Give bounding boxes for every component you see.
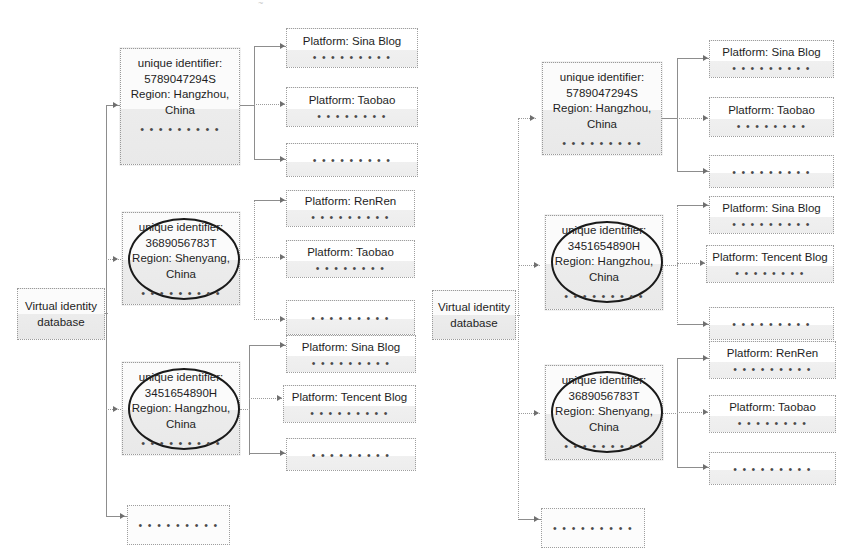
right-g2-arrow-2 — [700, 260, 705, 266]
left-platform-1-2-dots: • • • • • • • • — [317, 110, 386, 122]
left-identity-2-id-value: 3689056783T — [146, 236, 217, 252]
left-platform-1-1-label: Platform: Sina Blog — [303, 34, 401, 48]
right-platform-2-3-dots: • • • • • • • • • — [732, 318, 811, 330]
right-db-label: Virtual identity database — [438, 299, 510, 331]
left-g1-arrow-1 — [280, 43, 285, 49]
scan-artifact-glyph: ~ — [258, 0, 263, 8]
right-platform-2-2-dots: • • • • • • • • — [735, 267, 804, 279]
left-identity-card-3[interactable]: unique identifier: 3451654890H Region: H… — [122, 362, 240, 455]
diagram-canvas: ~ Virtual identity database unique ident… — [0, 0, 850, 560]
left-trunk-line — [106, 105, 107, 517]
left-platform-1-2-label: Platform: Taobao — [309, 93, 396, 107]
left-platform-2-3-dots: • • • • • • • • • — [311, 312, 390, 324]
right-platform-2-1-label: Platform: Sina Blog — [722, 201, 820, 215]
left-platform-2-1-label: Platform: RenRen — [305, 194, 396, 208]
right-platform-card-1-2[interactable]: Platform: Taobao • • • • • • • • — [709, 97, 834, 137]
left-g1-arrow-2 — [280, 101, 285, 107]
left-identity-1-country: China — [165, 103, 195, 119]
left-platform-card-3-1[interactable]: Platform: Sina Blog • • • • • • • • • — [286, 335, 416, 373]
right-platform-card-2-2[interactable]: Platform: Tencent Blog • • • • • • • • — [706, 245, 834, 283]
left-platform-card-1-1[interactable]: Platform: Sina Blog • • • • • • • • • — [286, 28, 418, 68]
right-identity-1-id-value: 5789047294S — [566, 86, 638, 102]
right-identity-2-country: China — [589, 270, 619, 286]
left-identity-card-2[interactable]: unique identifier: 3689056783T Region: S… — [122, 212, 240, 305]
right-platform-card-3-2[interactable]: Platform: Taobao • • • • • • • • — [709, 395, 836, 433]
right-g1-trunk — [677, 58, 678, 172]
right-identity-1-dots: • • • • • • • • • — [562, 137, 642, 149]
left-identity-1-id-value: 5789047294S — [144, 72, 216, 88]
left-platform-card-3-2[interactable]: Platform: Tencent Blog • • • • • • • • • — [283, 385, 416, 423]
right-g1-arrow-2 — [703, 115, 708, 121]
right-platform-card-2-1[interactable]: Platform: Sina Blog • • • • • • • • • — [709, 196, 834, 234]
left-g2-arrow-2 — [280, 254, 285, 260]
left-platform-2-1-dots: • • • • • • • • • — [311, 211, 390, 223]
left-g3-arrow-1 — [280, 342, 285, 348]
right-platform-1-2-dots: • • • • • • • • — [737, 120, 806, 132]
right-platform-3-1-label: Platform: RenRen — [727, 346, 818, 360]
right-identity-1-country: China — [587, 117, 617, 133]
left-identity-2-country: China — [166, 267, 196, 283]
left-platform-card-2-1[interactable]: Platform: RenRen • • • • • • • • • — [286, 190, 415, 227]
right-platform-2-2-label: Platform: Tencent Blog — [712, 250, 828, 264]
left-platform-card-2-2[interactable]: Platform: Taobao • • • • • • • • — [286, 240, 415, 278]
right-g3-arrow-3 — [703, 464, 708, 470]
left-platform-card-1-2[interactable]: Platform: Taobao • • • • • • • • — [286, 87, 418, 127]
right-identity-2-id-label: unique identifier: — [562, 223, 646, 239]
left-arrow-identity-3 — [113, 406, 118, 412]
right-platform-card-3-3[interactable]: • • • • • • • • • — [709, 452, 836, 485]
right-arrow-identity-1 — [530, 115, 535, 121]
left-overflow-dots: • • • • • • • • • — [138, 519, 218, 531]
left-platform-card-2-3[interactable]: • • • • • • • • • — [286, 300, 415, 335]
left-platform-3-3-dots: • • • • • • • • • — [312, 449, 391, 461]
right-platform-1-3-dots: • • • • • • • • • — [732, 166, 811, 178]
right-db-line2: database — [450, 317, 497, 329]
left-arrow-identity-1 — [113, 102, 118, 108]
right-identity-card-1[interactable]: unique identifier: 5789047294S Region: H… — [542, 62, 662, 155]
left-virtual-identity-database-box[interactable]: Virtual identity database — [17, 288, 105, 340]
left-platform-card-1-3[interactable]: • • • • • • • • • — [286, 143, 418, 177]
left-platform-1-3-dots: • • • • • • • • • — [313, 154, 392, 166]
right-identity-2-id-value: 3451654890H — [568, 239, 640, 255]
right-identity-2-dots: • • • • • • • • • — [564, 290, 644, 302]
left-db-line2: database — [37, 316, 84, 328]
left-identity-card-1[interactable]: unique identifier: 5789047294S Region: H… — [120, 48, 240, 165]
left-db-label: Virtual identity database — [25, 298, 97, 330]
right-identity-1-id-label: unique identifier: — [560, 70, 644, 86]
left-identity-1-id-label: unique identifier: — [138, 56, 222, 72]
right-g1-in — [662, 118, 678, 119]
left-g2-in — [240, 259, 255, 260]
right-identity-3-dots: • • • • • • • • • — [564, 440, 644, 452]
right-platform-card-1-1[interactable]: Platform: Sina Blog • • • • • • • • • — [709, 40, 834, 78]
left-platform-3-1-dots: • • • • • • • • • — [312, 357, 391, 369]
left-identity-2-region: Region: Shenyang, — [132, 251, 230, 267]
right-arrow-identity-3 — [534, 410, 539, 416]
right-platform-2-1-dots: • • • • • • • • • — [732, 218, 811, 230]
right-platform-3-1-dots: • • • • • • • • • — [733, 363, 812, 375]
left-platform-1-1-dots: • • • • • • • • • — [313, 51, 392, 63]
right-platform-3-3-dots: • • • • • • • • • — [733, 463, 812, 475]
right-platform-card-2-3[interactable]: • • • • • • • • • — [709, 307, 834, 340]
left-identity-1-dots: • • • • • • • • • — [140, 123, 220, 135]
right-platform-3-2-label: Platform: Taobao — [729, 400, 816, 414]
left-g2-trunk — [254, 200, 255, 320]
left-identity-2-id-label: unique identifier: — [139, 220, 223, 236]
left-overflow-card[interactable]: • • • • • • • • • — [127, 505, 230, 545]
left-g3-arrow-2 — [277, 395, 282, 401]
left-g1-trunk — [254, 46, 255, 160]
right-platform-1-1-label: Platform: Sina Blog — [722, 45, 820, 59]
right-platform-card-3-1[interactable]: Platform: RenRen • • • • • • • • • — [709, 341, 836, 379]
right-platform-card-1-3[interactable]: • • • • • • • • • — [709, 155, 834, 188]
right-identity-3-region: Region: Shenyang, — [555, 404, 653, 420]
right-overflow-card[interactable]: • • • • • • • • • — [541, 508, 645, 548]
right-identity-card-2[interactable]: unique identifier: 3451654890H Region: H… — [545, 215, 663, 310]
left-g1-arrow-3 — [280, 156, 285, 162]
right-g2-in — [663, 265, 678, 266]
left-platform-3-2-dots: • • • • • • • • • — [310, 407, 389, 419]
left-db-line1: Virtual identity — [25, 300, 97, 312]
right-virtual-identity-database-box[interactable]: Virtual identity database — [432, 290, 516, 340]
right-identity-3-id-value: 3689056783T — [569, 389, 640, 405]
right-g1-arrow-3 — [703, 168, 708, 174]
left-platform-card-3-3[interactable]: • • • • • • • • • — [286, 438, 416, 471]
right-identity-3-id-label: unique identifier: — [562, 373, 646, 389]
right-identity-card-3[interactable]: unique identifier: 3689056783T Region: S… — [545, 365, 663, 460]
